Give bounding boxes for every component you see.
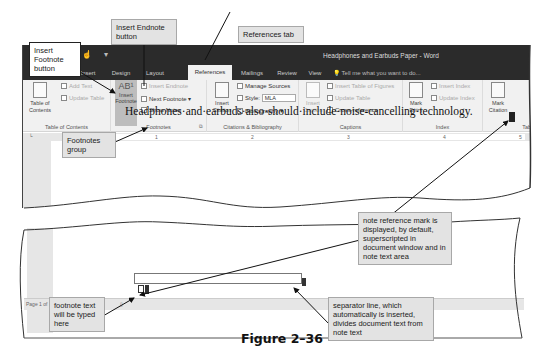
callout-references-tab: References tab [238,26,304,43]
figure-caption: Figure 2–36 [241,331,323,346]
callout-note-reference-mark: note reference mark is displayed, by def… [358,212,452,265]
callout-insert-footnote: Insert Footnote button [29,42,81,77]
callout-footnotes-group: Footnotes group [62,132,116,158]
callout-insert-endnote: Insert Endnote button [111,19,177,45]
callout-separator-line: separator line, which automatically is i… [328,297,434,341]
callout-footnote-text: footnote text will be typed here [49,297,105,332]
